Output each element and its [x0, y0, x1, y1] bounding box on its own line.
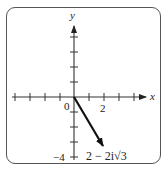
x-tick-label-2: 2	[100, 102, 106, 114]
y-tick-label-neg4: −4	[53, 151, 65, 163]
y-axis	[70, 26, 78, 160]
origin-label: 0	[64, 100, 70, 112]
x-axis-label: x	[149, 90, 155, 102]
complex-plane-diagram: x y 0 2 −4 2 − 2i√3	[0, 0, 167, 170]
y-axis-label: y	[69, 9, 75, 21]
vector-label: 2 − 2i√3	[86, 149, 127, 163]
x-axis	[12, 93, 146, 101]
vector-arrow	[74, 97, 103, 146]
